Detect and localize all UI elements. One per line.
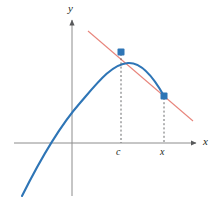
- figure-canvas: [0, 0, 216, 200]
- point-marker-x: [161, 93, 168, 100]
- function-curve: [22, 63, 164, 196]
- x-tick-label-x: x: [160, 147, 164, 157]
- calculus-figure: y x c x: [0, 0, 216, 200]
- point-marker-c: [118, 49, 125, 56]
- x-tick-label-c: c: [116, 147, 120, 157]
- y-axis-label: y: [68, 3, 73, 14]
- x-axis-label: x: [203, 136, 208, 147]
